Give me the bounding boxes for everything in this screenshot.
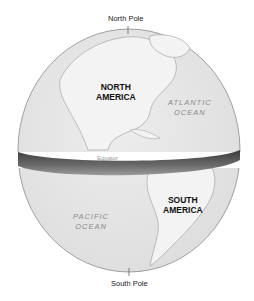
globe-diagram — [0, 0, 254, 301]
south-pole-label: South Pole — [111, 279, 148, 288]
equator-label: Equator — [97, 155, 118, 161]
pacific-ocean-label: PACIFIC OCEAN — [73, 212, 109, 232]
north-america-label: NORTH AMERICA — [96, 82, 136, 102]
atlantic-ocean-label: ATLANTIC OCEAN — [168, 98, 212, 118]
south-america-label: SOUTH AMERICA — [163, 195, 203, 215]
north-pole-label: North Pole — [108, 14, 143, 23]
